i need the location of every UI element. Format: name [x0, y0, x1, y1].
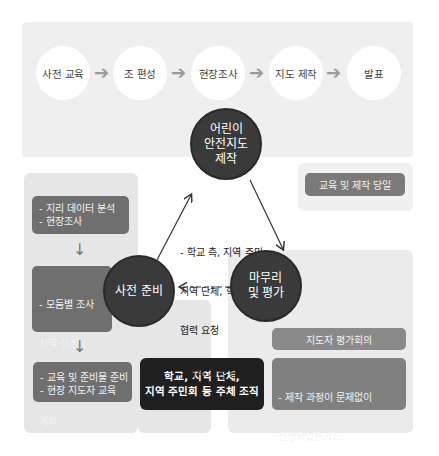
center-circle-safety-map: 어린이 안전지도 제작 [190, 108, 262, 180]
prep-circle: 사전 준비 [103, 255, 175, 327]
finish-circle: 마무리 및 평가 [230, 250, 302, 322]
